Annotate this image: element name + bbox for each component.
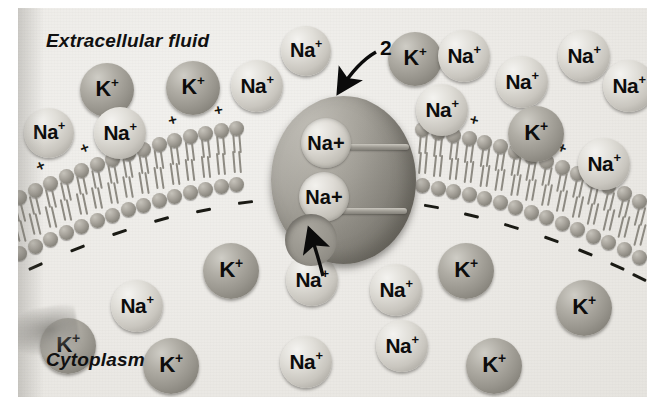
phospholipid-tail bbox=[206, 156, 210, 178]
membrane-outer-positive-charge: + bbox=[166, 110, 179, 129]
cytoplasm-label: Cytoplasm bbox=[46, 349, 145, 371]
phospholipid-head-inner bbox=[136, 198, 151, 213]
phospholipid-tail bbox=[464, 161, 469, 183]
phospholipid-head-inner bbox=[586, 229, 601, 244]
phospholipid-tail bbox=[439, 138, 443, 157]
cytoplasm-ion-sodium: Na+ bbox=[111, 280, 163, 332]
phospholipid-head-inner bbox=[167, 189, 182, 204]
phospholipid-tail bbox=[113, 165, 118, 184]
phospholipid-head-inner bbox=[570, 222, 585, 237]
phospholipid-head-inner bbox=[214, 179, 229, 194]
phospholipid-tail bbox=[122, 176, 128, 198]
extracellular-ion-potassium: K+ bbox=[388, 32, 442, 86]
phospholipid-tail bbox=[138, 155, 143, 174]
phospholipid-tail bbox=[175, 163, 180, 185]
membrane-inner-negative-charge bbox=[632, 273, 647, 282]
phospholipid-tail bbox=[546, 184, 552, 206]
membrane-inner-negative-charge bbox=[504, 223, 519, 230]
phospholipid-tail bbox=[60, 199, 67, 221]
diagram-panel: +++++++++++ K+Na+Na+K+Na+Na+K+Na+Na+Na+N… bbox=[18, 8, 647, 397]
phospholipid-head-outer bbox=[229, 121, 244, 136]
extracellular-ion-sodium: Na+ bbox=[603, 60, 647, 112]
phospholipid-head-inner bbox=[446, 184, 461, 199]
phospholipid-head-inner bbox=[229, 177, 244, 192]
phospholipid-tail bbox=[222, 153, 226, 175]
phospholipid-tail bbox=[50, 189, 56, 208]
phospholipid-head-inner bbox=[74, 219, 89, 234]
phospholipid-head-outer bbox=[462, 131, 477, 146]
phospholipid-tail bbox=[232, 151, 236, 173]
phospholipid-tail bbox=[75, 193, 81, 215]
phospholipid-tail bbox=[516, 174, 522, 196]
phospholipid-tail bbox=[525, 179, 531, 201]
phospholipid-head-inner bbox=[152, 193, 167, 208]
membrane-inner-negative-charge bbox=[112, 229, 127, 236]
cytoplasm-ion-potassium: K+ bbox=[143, 338, 199, 394]
extracellular-ion-sodium: Na+ bbox=[281, 26, 331, 76]
extracellular-ion-potassium: K+ bbox=[166, 61, 220, 115]
cytoplasm-ion-potassium: K+ bbox=[466, 338, 522, 394]
extracellular-ion-sodium: Na+ bbox=[578, 138, 630, 190]
phospholipid-tail bbox=[144, 155, 149, 174]
cytoplasm-ion-sodium: Na+ bbox=[376, 320, 428, 372]
phospholipid-tail bbox=[238, 134, 242, 153]
phospholipid-tail bbox=[44, 206, 51, 228]
phospholipid-tail bbox=[91, 187, 97, 209]
phospholipid-tail bbox=[577, 196, 584, 218]
phospholipid-tail bbox=[66, 199, 73, 221]
membrane-inner-negative-charge bbox=[424, 204, 439, 209]
cytoplasm-ion-sodium: Na+ bbox=[370, 264, 422, 316]
phospholipid-tail bbox=[159, 167, 164, 189]
phospholipid-tail bbox=[494, 169, 499, 191]
phospholipid-tail bbox=[448, 158, 453, 180]
phospholipid-tail bbox=[639, 207, 646, 226]
membrane-outer-positive-charge: + bbox=[468, 111, 481, 130]
phospholipid-tail bbox=[510, 174, 516, 196]
phospholipid-tail bbox=[479, 165, 484, 187]
phospholipid-tail bbox=[81, 193, 87, 215]
cytoplasm-ion-potassium: K+ bbox=[438, 243, 494, 299]
phospholipid-tail bbox=[470, 161, 475, 183]
phospholipid-tail bbox=[107, 182, 113, 204]
phospholipid-head-inner bbox=[555, 216, 570, 231]
phospholipid-tail bbox=[128, 176, 134, 198]
phospholipid-tail bbox=[191, 159, 196, 181]
phospholipid-tail bbox=[232, 134, 236, 153]
extracellular-fluid-label: Extracellular fluid bbox=[46, 30, 209, 52]
phospholipid-head-inner bbox=[539, 210, 554, 225]
phospholipid-head-inner bbox=[524, 205, 539, 220]
phospholipid-tail bbox=[454, 141, 458, 160]
phospholipid-tail bbox=[113, 182, 119, 204]
phospholipid-tail bbox=[540, 184, 546, 206]
phospholipid-tail bbox=[144, 172, 149, 194]
phospholipid-tail bbox=[44, 189, 50, 208]
phospholipid-head-inner bbox=[90, 213, 105, 228]
phospholipid-head-inner bbox=[183, 185, 198, 200]
extracellular-ion-sodium: Na+ bbox=[438, 30, 490, 82]
phospholipid-head-inner bbox=[198, 182, 213, 197]
extracellular-ion-sodium: Na+ bbox=[496, 56, 548, 108]
phospholipid-tail bbox=[97, 187, 103, 209]
membrane-outer-positive-charge: + bbox=[77, 138, 91, 157]
membrane-inner-negative-charge bbox=[70, 244, 85, 252]
membrane-inner-negative-charge bbox=[610, 262, 625, 270]
phospholipid-tail bbox=[185, 159, 190, 181]
phospholipid-head-inner bbox=[43, 232, 58, 247]
phospholipid-tail bbox=[571, 196, 578, 218]
extracellular-ion-sodium: Na+ bbox=[558, 30, 610, 82]
phospholipid-tail bbox=[169, 163, 174, 185]
sodium-potassium-pump-protein: Na+Na+ bbox=[271, 96, 416, 264]
phospholipid-head-inner bbox=[601, 235, 616, 250]
phospholipid-tail bbox=[200, 156, 204, 178]
phospholipid-tail bbox=[562, 190, 568, 212]
cytoplasm-ion-potassium: K+ bbox=[203, 243, 259, 299]
extracellular-ion-sodium: Na+ bbox=[94, 107, 146, 159]
phospholipid-head-inner bbox=[431, 181, 446, 196]
membrane-inner-negative-charge bbox=[544, 236, 559, 243]
phospholipid-tail bbox=[593, 203, 600, 225]
extracellular-ion-sodium: Na+ bbox=[231, 60, 283, 112]
phospholipid-tail bbox=[107, 165, 112, 184]
extracellular-ion-potassium: K+ bbox=[508, 106, 564, 162]
step-number-label: 2 bbox=[380, 36, 392, 60]
membrane-inner-negative-charge bbox=[196, 207, 211, 212]
